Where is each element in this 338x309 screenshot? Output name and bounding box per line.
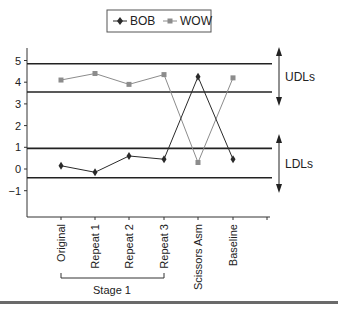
data-point xyxy=(93,168,98,176)
legend-label-bob: BOB xyxy=(130,14,155,28)
udl-label: UDLs xyxy=(285,70,315,84)
stage-label: Stage 1 xyxy=(93,284,131,296)
udl-annotation: UDLs xyxy=(276,47,315,106)
y-tick-label: 2 xyxy=(15,120,21,132)
x-axis: OriginalRepeat 1Repeat 2Repeat 3Scissors… xyxy=(27,217,270,290)
y-tick-label: 3 xyxy=(15,98,21,110)
arrow-down-icon xyxy=(276,97,282,106)
data-point xyxy=(196,160,201,165)
y-tick-label: 4 xyxy=(15,76,21,88)
data-point xyxy=(127,82,132,87)
x-tick-label: Repeat 1 xyxy=(89,224,101,269)
legend-label-wow: WOW xyxy=(180,14,213,28)
stage-bracket: Stage 1 xyxy=(61,273,164,296)
divider xyxy=(0,301,338,304)
data-point xyxy=(231,155,236,163)
data-point xyxy=(196,73,201,81)
data-point xyxy=(231,75,236,80)
series-group xyxy=(59,71,236,176)
data-point xyxy=(59,78,64,83)
x-tick-label: Repeat 2 xyxy=(123,224,135,269)
x-tick-label: Scissors Asm xyxy=(192,224,204,290)
data-point xyxy=(162,72,167,77)
series-bob xyxy=(59,73,236,176)
data-point xyxy=(162,155,167,163)
y-tick-label: 5 xyxy=(15,55,21,67)
ldl-annotation: LDLs xyxy=(276,134,313,193)
data-point xyxy=(93,71,98,76)
x-tick-label: Repeat 3 xyxy=(158,224,170,269)
data-point xyxy=(59,162,64,170)
ldl-label: LDLs xyxy=(285,157,313,171)
square-marker-icon xyxy=(168,19,173,24)
arrow-up-icon xyxy=(276,47,282,56)
arrow-down-icon xyxy=(276,184,282,193)
x-tick-label: Baseline xyxy=(227,224,239,266)
y-tick-label: 1 xyxy=(15,141,21,153)
data-point xyxy=(127,152,132,160)
y-tick-label: 0 xyxy=(15,163,21,175)
reference-lines xyxy=(27,64,272,178)
series-wow xyxy=(59,71,236,165)
x-tick-label: Original xyxy=(55,224,67,262)
y-tick-label: −1 xyxy=(8,185,21,197)
arrow-up-icon xyxy=(276,134,282,143)
line-chart: BOB WOW 543210−1 OriginalRepeat 1Repeat … xyxy=(0,0,338,309)
legend: BOB WOW xyxy=(107,10,213,32)
y-axis: 543210−1 xyxy=(8,48,27,217)
